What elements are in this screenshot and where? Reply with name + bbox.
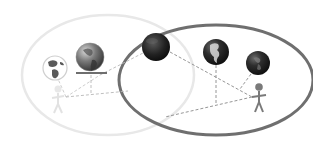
globe-americas-icon: [203, 39, 229, 65]
diagram-canvas: [0, 0, 313, 141]
connector-person-to-lower-left: [165, 97, 252, 117]
small-dark-globe-icon: [246, 51, 270, 75]
person-icon: [252, 83, 266, 112]
connector-platform-to-dark-globe: [100, 52, 145, 75]
small-globe-outlined-icon: [43, 56, 67, 80]
faded-person-icon: [52, 86, 64, 114]
globe-on-platform-icon: [76, 43, 104, 71]
connector-faded-person-to-platform: [66, 75, 100, 97]
dark-globe-shared-icon: [142, 33, 170, 61]
connector-faded-person-right: [66, 91, 128, 97]
connector-small-dark-globe-to-person: [240, 74, 251, 89]
